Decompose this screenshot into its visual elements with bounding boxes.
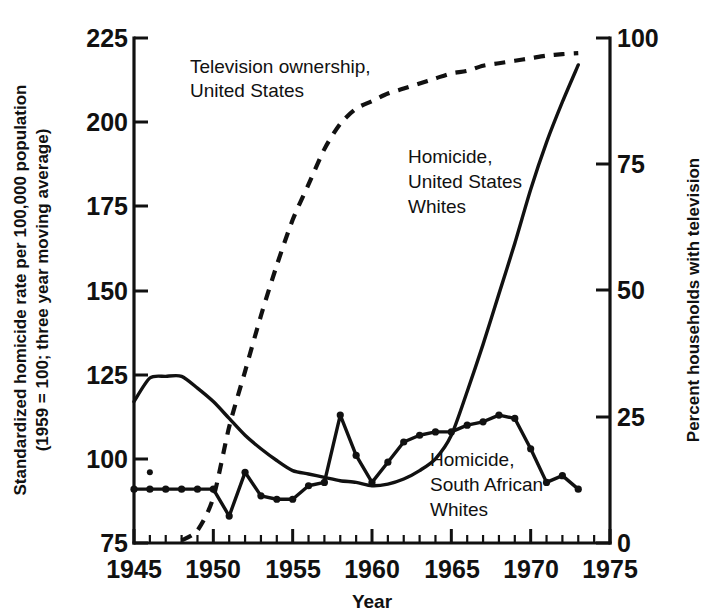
tv-annotation-line1: Television ownership, — [190, 56, 371, 77]
data-point-marker — [289, 496, 296, 503]
sa-homicide-annotation-line2: South African — [430, 474, 543, 495]
x-axis-title: Year — [352, 591, 393, 612]
data-point-marker — [337, 411, 344, 418]
data-point-marker — [226, 512, 233, 519]
y2-axis-title: Percent households with television — [684, 158, 703, 442]
left-axis-tick-labels: 225 200 175 150 125 100 75 — [86, 24, 128, 557]
y-axis-title-line1: Standardized homicide rate per 100,000 p… — [11, 85, 30, 496]
data-point-marker — [559, 472, 566, 479]
sa-homicide-annotation-line3: Whites — [430, 499, 488, 520]
data-point-marker — [353, 452, 360, 459]
left-tick-label-225: 225 — [86, 24, 128, 52]
left-tick-label-75: 75 — [100, 529, 128, 557]
x-tick-label-1970: 1970 — [503, 555, 559, 583]
data-point-marker — [416, 432, 423, 439]
stray-data-point-marker — [147, 469, 153, 475]
data-point-marker — [368, 479, 375, 486]
left-tick-label-175: 175 — [86, 192, 128, 220]
tv-annotation: Television ownership, United States — [190, 56, 371, 101]
data-point-marker — [178, 486, 185, 493]
right-axis-tick-labels: 100 75 50 25 0 — [617, 24, 659, 557]
tv-ownership-line — [182, 53, 579, 540]
data-point-marker — [511, 415, 518, 422]
data-point-marker — [321, 479, 328, 486]
x-axis-ticks — [134, 529, 610, 543]
data-point-marker — [400, 438, 407, 445]
data-point-marker — [273, 496, 280, 503]
us-homicide-annotation-line3: Whites — [408, 196, 466, 217]
data-point-marker — [257, 492, 264, 499]
sa-homicide-annotation-line1: Homicide, — [430, 449, 514, 470]
left-tick-label-100: 100 — [86, 445, 128, 473]
data-point-marker — [464, 422, 471, 429]
data-point-marker — [241, 469, 248, 476]
us-homicide-annotation-line2: United States — [408, 171, 522, 192]
data-point-marker — [543, 479, 550, 486]
data-point-marker — [194, 486, 201, 493]
x-tick-label-1975: 1975 — [582, 555, 638, 583]
left-tick-label-150: 150 — [86, 277, 128, 305]
data-point-marker — [479, 418, 486, 425]
right-axis-ticks — [596, 38, 610, 543]
x-tick-label-1960: 1960 — [344, 555, 400, 583]
x-axis-tick-labels: 1945 1950 1955 1960 1965 1970 1975 — [106, 555, 638, 583]
us-homicide-line — [134, 65, 578, 486]
data-point-marker — [432, 428, 439, 435]
data-point-marker — [162, 486, 169, 493]
us-homicide-annotation: Homicide, United States Whites — [408, 146, 522, 217]
x-tick-label-1965: 1965 — [424, 555, 480, 583]
chart-canvas: 225 200 175 150 125 100 75 100 75 50 25 … — [0, 0, 718, 616]
data-point-marker — [448, 428, 455, 435]
data-point-marker — [575, 486, 582, 493]
x-tick-label-1955: 1955 — [265, 555, 321, 583]
data-point-marker — [305, 482, 312, 489]
x-tick-label-1945: 1945 — [106, 555, 162, 583]
chart-figure: 225 200 175 150 125 100 75 100 75 50 25 … — [0, 0, 718, 616]
data-point-marker — [384, 459, 391, 466]
data-point-marker — [527, 445, 534, 452]
us-homicide-annotation-line1: Homicide, — [408, 146, 492, 167]
left-tick-label-200: 200 — [86, 108, 128, 136]
sa-homicide-annotation: Homicide, South African Whites — [430, 449, 543, 520]
left-axis-ticks — [134, 38, 148, 543]
right-tick-label-0: 0 — [617, 529, 631, 557]
data-point-marker — [146, 486, 153, 493]
left-tick-label-125: 125 — [86, 361, 128, 389]
tv-ownership-line-path — [182, 53, 579, 540]
right-tick-label-75: 75 — [617, 150, 645, 178]
us-homicide-line-path — [134, 65, 578, 486]
data-point-marker — [495, 411, 502, 418]
x-tick-label-1950: 1950 — [185, 555, 241, 583]
data-point-marker — [130, 486, 137, 493]
tv-annotation-line2: United States — [190, 80, 304, 101]
right-tick-label-25: 25 — [617, 403, 645, 431]
right-tick-label-100: 100 — [617, 24, 659, 52]
y-axis-title-line2: (1959 = 100; three year moving average) — [33, 129, 52, 452]
right-tick-label-50: 50 — [617, 276, 645, 304]
